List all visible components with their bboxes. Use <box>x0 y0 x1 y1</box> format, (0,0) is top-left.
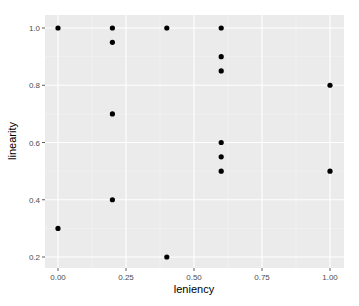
data-point <box>327 83 332 88</box>
data-point <box>55 226 60 231</box>
data-point <box>327 169 332 174</box>
y-tick-label: 0.6 <box>29 139 41 148</box>
data-point <box>219 140 224 145</box>
x-tick-label: 1.00 <box>322 273 338 282</box>
data-point <box>164 25 169 30</box>
y-tick-label: 1.0 <box>29 24 41 33</box>
x-tick-label: 0.75 <box>254 273 270 282</box>
data-point <box>164 254 169 259</box>
x-tick-label: 0.25 <box>118 273 134 282</box>
data-point <box>219 54 224 59</box>
y-axis-title: linearity <box>6 122 18 160</box>
y-tick-label: 0.2 <box>29 253 41 262</box>
x-tick-label: 0.00 <box>50 273 66 282</box>
data-point <box>219 68 224 73</box>
data-point <box>219 25 224 30</box>
data-point <box>55 25 60 30</box>
x-axis-ticks: 0.000.250.500.751.00 <box>50 268 338 282</box>
y-tick-label: 0.4 <box>29 196 41 205</box>
x-axis-title: leniency <box>174 283 215 295</box>
data-point <box>110 111 115 116</box>
data-point <box>110 25 115 30</box>
scatter-chart: 0.000.250.500.751.00 0.20.40.60.81.0 len… <box>0 0 359 306</box>
x-tick-label: 0.50 <box>186 273 202 282</box>
data-point <box>110 197 115 202</box>
y-tick-label: 0.8 <box>29 81 41 90</box>
data-point <box>219 169 224 174</box>
data-point <box>219 154 224 159</box>
y-axis-ticks: 0.20.40.60.81.0 <box>29 24 45 262</box>
data-point <box>110 40 115 45</box>
